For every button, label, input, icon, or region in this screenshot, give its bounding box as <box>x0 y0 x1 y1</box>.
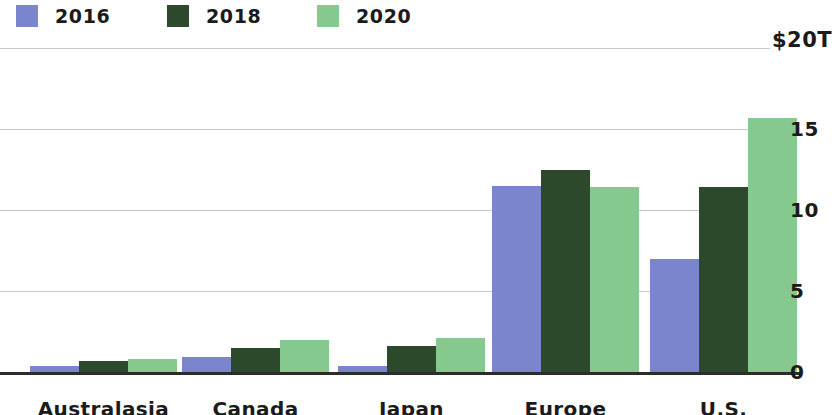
gridline-15 <box>0 129 770 130</box>
bar-japan-2020 <box>436 338 485 372</box>
bar-us-2016 <box>650 259 699 372</box>
y-axis-max-label: $20T <box>772 28 832 52</box>
bar-australasia-2018 <box>79 361 128 372</box>
y-tick-label-15: 15 <box>790 117 819 141</box>
bar-australasia-2020 <box>128 359 177 372</box>
y-tick-label-0: 0 <box>790 360 804 384</box>
bar-europe-2020 <box>590 187 639 372</box>
y-tick-label-10: 10 <box>790 198 819 222</box>
bar-japan-2016 <box>338 366 387 372</box>
bar-europe-2016 <box>492 186 541 372</box>
bar-canada-2018 <box>231 348 280 372</box>
bar-us-2020 <box>748 118 797 372</box>
bar-japan-2018 <box>387 346 436 372</box>
gridline-10 <box>0 210 770 211</box>
bar-canada-2016 <box>182 357 231 372</box>
axis-baseline <box>0 372 800 375</box>
bar-chart: 2016 2018 2020 151050$20T AustralasiaCan… <box>0 0 837 415</box>
bar-canada-2020 <box>280 340 329 372</box>
bar-australasia-2016 <box>30 366 79 372</box>
plot-area <box>0 0 770 415</box>
y-tick-label-5: 5 <box>790 279 804 303</box>
x-category-label-us: U.S. <box>610 397 837 415</box>
gridline-20 <box>0 48 770 49</box>
bar-us-2018 <box>699 187 748 372</box>
bar-europe-2018 <box>541 170 590 373</box>
